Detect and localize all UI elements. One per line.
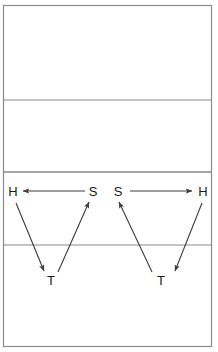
label-h-right: H — [198, 184, 207, 199]
label-t-right: T — [157, 273, 165, 288]
label-t-left: T — [47, 273, 55, 288]
diagram-container: H S S H T T — [0, 0, 218, 352]
diagram-canvas: H S S H T T — [0, 0, 218, 352]
field-border-rect — [4, 6, 212, 347]
label-h-left: H — [8, 184, 17, 199]
label-s-left: S — [89, 184, 98, 199]
label-s-right: S — [114, 184, 123, 199]
